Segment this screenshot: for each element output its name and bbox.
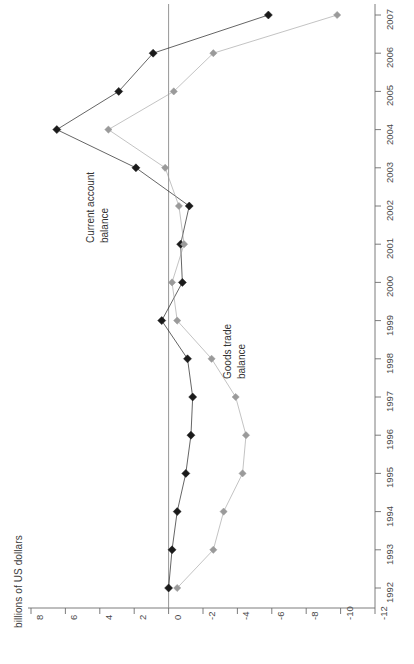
- data-point-marker: [105, 126, 112, 133]
- data-point-marker: [132, 164, 140, 172]
- value-tick-label: 8: [35, 615, 45, 620]
- year-tick-label-2000: 2000: [385, 276, 395, 297]
- data-point-marker: [175, 202, 182, 209]
- data-point-marker: [168, 279, 175, 286]
- value-tick-label: 2: [138, 615, 148, 620]
- year-tick-label-1992: 1992: [385, 582, 395, 603]
- series-line-goods-trade: [108, 15, 337, 588]
- data-point-marker: [232, 393, 239, 400]
- axis-lines: [28, 4, 375, 608]
- data-point-marker: [242, 432, 249, 439]
- data-point-marker: [220, 508, 227, 515]
- year-tick-label-1994: 1994: [385, 505, 395, 526]
- data-point-marker: [185, 202, 193, 210]
- data-point-marker: [173, 508, 181, 516]
- value-tick-label: -6: [276, 612, 286, 620]
- value-tick-label: 0: [173, 615, 183, 620]
- year-tick-label-1999: 1999: [385, 314, 395, 335]
- data-point-marker: [182, 469, 190, 477]
- data-point-marker: [168, 546, 176, 554]
- value-tick-label: -4: [241, 612, 251, 620]
- value-tick-label: -8: [310, 612, 320, 620]
- data-point-marker: [53, 126, 61, 134]
- data-point-marker: [264, 11, 272, 19]
- data-point-marker: [334, 11, 341, 18]
- value-tick-label: -2: [207, 612, 217, 620]
- series-markers: [53, 11, 341, 592]
- series-lines: [57, 15, 337, 588]
- value-tick-label: 6: [69, 615, 79, 620]
- year-tick-label-1997: 1997: [385, 391, 395, 412]
- value-tick-label: -10: [345, 606, 355, 620]
- annotation-goods-trade-line2: balance: [236, 344, 249, 379]
- data-point-marker: [165, 584, 173, 592]
- data-point-marker: [189, 393, 197, 401]
- data-point-marker: [158, 317, 166, 325]
- year-tick-label-2006: 2006: [385, 47, 395, 68]
- year-tick-label-2003: 2003: [385, 162, 395, 183]
- data-point-marker: [178, 278, 186, 286]
- value-tick-label: -12: [379, 606, 389, 620]
- year-tick-label-1998: 1998: [385, 353, 395, 374]
- year-tick-label-2005: 2005: [385, 85, 395, 106]
- axis-ticks: [31, 15, 381, 614]
- year-tick-label-2002: 2002: [385, 200, 395, 221]
- data-point-marker: [187, 431, 195, 439]
- annotation-current-account-line1: Current account: [85, 172, 98, 243]
- data-point-marker: [239, 470, 246, 477]
- data-point-marker: [162, 164, 169, 171]
- data-point-marker: [184, 355, 192, 363]
- series-line-current-account: [57, 15, 269, 588]
- value-tick-label: 4: [104, 615, 114, 620]
- year-tick-label-1993: 1993: [385, 544, 395, 565]
- annotation-current-account-line2: balance: [99, 208, 112, 243]
- year-tick-label-2007: 2007: [385, 9, 395, 30]
- year-tick-label-1996: 1996: [385, 429, 395, 450]
- year-tick-label-2001: 2001: [385, 238, 395, 259]
- plot-area: [0, 0, 414, 664]
- year-tick-label-2004: 2004: [385, 123, 395, 144]
- annotation-goods-trade-line1: Goods trade: [222, 324, 235, 379]
- chart-container: billions of US dollars 86420-2-4-6-8-10-…: [0, 0, 414, 664]
- year-tick-label-1995: 1995: [385, 467, 395, 488]
